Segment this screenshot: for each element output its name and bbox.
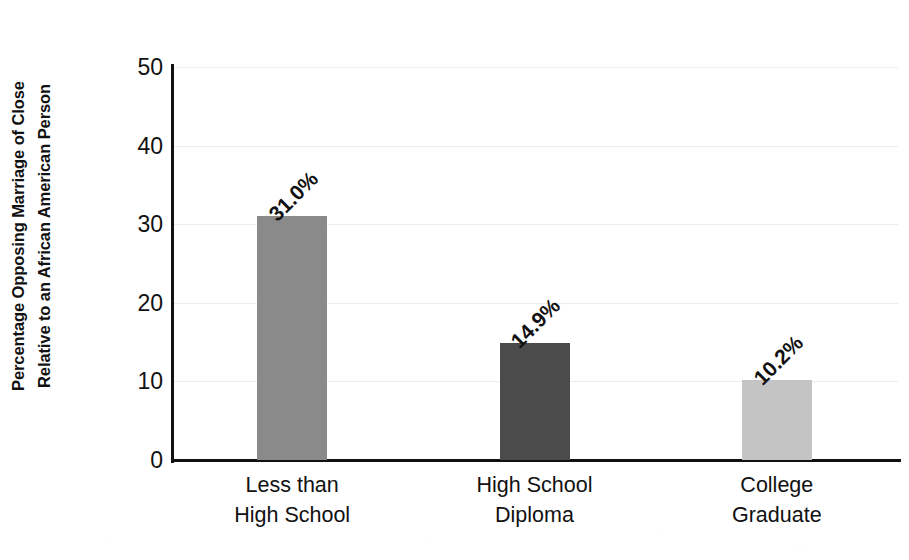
x-axis-category-labels: Less thanHigh SchoolHigh SchoolDiplomaCo… — [171, 470, 898, 550]
bar — [500, 343, 570, 460]
bar — [742, 380, 812, 460]
y-axis-tick-label: 0 — [113, 447, 163, 474]
x-axis-category-label-line: Graduate — [656, 500, 898, 530]
x-axis-category-label-line: High School — [413, 470, 655, 500]
x-axis-category-label-line: College — [656, 470, 898, 500]
x-axis-category-label-line: Diploma — [413, 500, 655, 530]
bar — [257, 216, 327, 460]
y-axis-title-line-1: Percentage Opposing Marriage of Close — [9, 81, 28, 391]
bars-layer: 31.0%14.9%10.2% — [171, 67, 898, 460]
y-axis-title-line-2: Relative to an African American Person — [35, 84, 54, 388]
y-axis-tick-labels: 50403020100 — [111, 67, 163, 460]
x-axis-category-label: High SchoolDiploma — [413, 470, 655, 530]
y-axis-title: Percentage Opposing Marriage of Close Re… — [0, 0, 70, 470]
y-axis-tick-label: 30 — [113, 211, 163, 238]
y-axis-tick-label: 50 — [113, 54, 163, 81]
x-axis-category-label: CollegeGraduate — [656, 470, 898, 530]
y-axis-tick-label: 10 — [113, 368, 163, 395]
y-axis-tick-label: 40 — [113, 132, 163, 159]
y-axis-tick-label: 20 — [113, 289, 163, 316]
x-axis-category-label: Less thanHigh School — [171, 470, 413, 530]
x-axis-category-label-line: High School — [171, 500, 413, 530]
x-axis-category-label-line: Less than — [171, 470, 413, 500]
bar-chart: Percentage Opposing Marriage of Close Re… — [0, 0, 909, 560]
